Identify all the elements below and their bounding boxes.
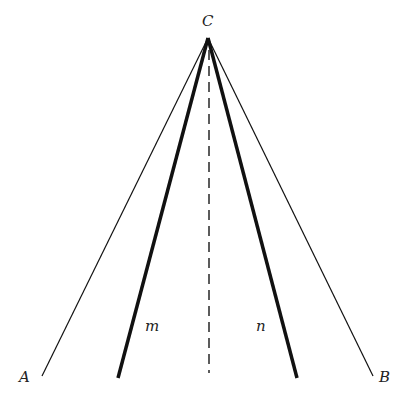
label-m: m [145,317,159,335]
line-ca [42,38,208,376]
diagram-canvas: C A B m n [0,0,402,410]
label-b: B [378,368,390,386]
label-a: A [17,368,30,386]
triangle-diagram: C A B m n [0,0,402,410]
label-n: n [256,317,266,335]
line-cb [208,38,373,376]
label-c: C [202,12,214,30]
line-n [208,38,297,378]
line-m [118,38,208,378]
